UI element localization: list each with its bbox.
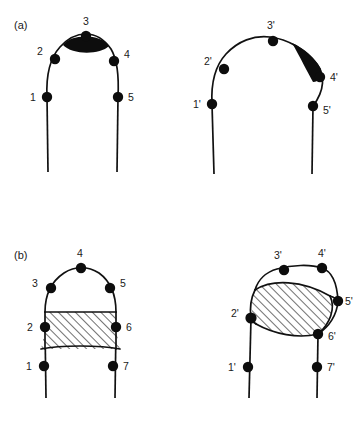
panel-a: (a) 1 2 3 4 5 — [14, 15, 338, 174]
marker-label: 1' — [193, 98, 201, 110]
marker-dot — [279, 265, 289, 275]
marker-label: 4 — [77, 247, 83, 259]
marker-dot — [111, 322, 121, 332]
marker-dot — [42, 92, 52, 102]
marker-label: 1 — [30, 91, 36, 103]
marker-label: 5' — [345, 295, 353, 307]
shape-a-right: 1' 2' 3' 4' 5' — [193, 19, 338, 174]
marker-label: 3 — [83, 15, 89, 27]
marker-label: 4 — [124, 48, 130, 60]
marker-label: 6 — [126, 321, 132, 333]
marker-label: 2 — [27, 321, 33, 333]
marker-dot — [245, 312, 256, 323]
marker-label: 2' — [231, 307, 239, 319]
marker-dot — [308, 101, 318, 111]
marker-label: 2 — [37, 45, 43, 57]
marker-dot — [317, 263, 327, 273]
marker-dot — [219, 64, 229, 74]
marker-label: 5 — [120, 277, 126, 289]
left-leg — [47, 97, 48, 172]
marker-dot — [207, 99, 217, 109]
marker-dot — [81, 31, 91, 41]
marker-dot — [39, 361, 49, 371]
marker-dot — [40, 322, 50, 332]
marker-label: 6' — [328, 330, 336, 342]
shape-a-left: 1 2 3 4 5 — [30, 15, 134, 172]
panel-a-label: (a) — [14, 19, 27, 31]
marker-dot — [333, 296, 343, 306]
marker-dot — [113, 92, 123, 102]
right-leg — [117, 97, 118, 172]
shape-b-left: 1 2 3 4 5 6 7 — [26, 247, 132, 398]
marker-label: 7 — [123, 360, 129, 372]
marker-label: 3 — [32, 277, 38, 289]
marker-dot — [105, 283, 115, 293]
marker-dot — [243, 362, 253, 372]
marker-dot — [312, 362, 322, 372]
marker-label: 1' — [228, 361, 236, 373]
profile-diagram: (a) 1 2 3 4 5 — [0, 0, 364, 421]
marker-label: 1 — [26, 360, 32, 372]
marker-label: 4' — [330, 71, 338, 83]
panel-b: (b) — [14, 247, 353, 398]
marker-label: 2' — [204, 55, 212, 67]
marker-dot — [315, 72, 325, 82]
marker-label: 5' — [323, 104, 331, 116]
marker-label: 3' — [267, 19, 275, 31]
marker-label: 7' — [327, 361, 335, 373]
marker-label: 3' — [274, 249, 282, 261]
marker-label: 5 — [128, 91, 134, 103]
shape-b-right: 1' 2' 3' 4' 5' 6' 7' — [228, 247, 353, 398]
marker-label: 4' — [318, 247, 326, 259]
marker-dot — [313, 329, 323, 339]
left-leg — [212, 104, 214, 174]
figure-root: (a) 1 2 3 4 5 — [0, 0, 364, 421]
marker-dot — [268, 36, 278, 46]
marker-dot — [76, 263, 86, 273]
marker-dot — [46, 283, 56, 293]
right-leg — [312, 106, 313, 174]
left-leg — [249, 318, 251, 398]
marker-dot — [108, 361, 118, 371]
panel-b-label: (b) — [14, 249, 27, 261]
marker-dot — [50, 54, 60, 64]
marker-dot — [109, 56, 119, 66]
